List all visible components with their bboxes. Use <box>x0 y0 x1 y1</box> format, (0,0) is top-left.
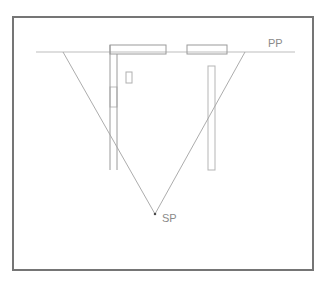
picture-plane-label: PP <box>268 37 283 49</box>
plan-geometry-group <box>110 45 227 170</box>
plan-column-small <box>126 72 132 83</box>
plan-door-swing <box>110 87 117 107</box>
plan-pier-right <box>208 66 215 170</box>
figure-border <box>13 17 313 270</box>
plan-block-left <box>110 45 166 54</box>
plan-block-right <box>187 45 227 54</box>
perspective-plan-figure: PP SP <box>0 0 330 283</box>
sight-line-left <box>63 52 155 214</box>
station-point-label: SP <box>162 212 177 224</box>
sight-line-group <box>63 52 245 214</box>
figure-canvas: PP SP <box>0 0 330 283</box>
sight-line-right <box>155 52 245 214</box>
station-point-marker <box>154 213 156 215</box>
